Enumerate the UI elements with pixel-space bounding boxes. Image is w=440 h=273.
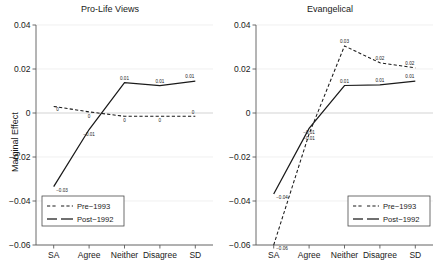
data-point-label: −0.01 <box>83 132 95 137</box>
y-axis-tick-label: 0.04 <box>234 20 251 30</box>
data-point-label: 0 <box>56 107 59 112</box>
y-axis-tick-label: −0.02 <box>9 152 31 162</box>
series-line-pre-1993 <box>54 106 196 116</box>
data-point-label: −0.01 <box>303 130 315 135</box>
data-point-label: 0.01 <box>155 79 164 84</box>
data-point-label: 0 <box>159 118 162 123</box>
series-line-post-1992 <box>54 81 196 187</box>
data-point-label: −0.01 <box>303 136 315 141</box>
legend-label-post: Post−1992 <box>77 215 114 224</box>
data-point-label: 0.03 <box>340 39 349 44</box>
legend-label-pre: Pre−1993 <box>383 202 416 211</box>
x-axis-category-label: SA <box>48 250 60 260</box>
y-axis-tick-label: −0.06 <box>229 240 251 250</box>
data-point-label: 0.02 <box>375 56 384 61</box>
data-point-label: 0 <box>123 118 126 123</box>
x-axis-category-label: SD <box>409 250 421 260</box>
data-point-label: −0.06 <box>276 246 288 251</box>
data-point-label: 0 <box>88 114 91 119</box>
data-point-label: 0 <box>192 110 195 115</box>
y-axis-tick-label: 0.04 <box>14 20 31 30</box>
data-point-label: 0.01 <box>185 74 194 79</box>
y-axis-tick-label: 0.02 <box>234 64 251 74</box>
data-point-label: 0.01 <box>340 79 349 84</box>
data-point-label: −0.04 <box>276 195 288 200</box>
plot-area-pro-life: −0.06−0.04−0.0200.020.04SAAgreeNeitherDi… <box>0 0 220 273</box>
x-axis-category-label: Agree <box>78 250 101 260</box>
y-axis-tick-label: −0.04 <box>9 196 31 206</box>
data-point-label: −0.03 <box>56 188 68 193</box>
x-axis-category-label: Neither <box>111 250 139 260</box>
chart-panel-evangelical: Evangelical Marginal Effect −0.06−0.04−0… <box>220 0 440 273</box>
figure-container: Pro-Life Views Marginal Effect −0.06−0.0… <box>0 0 440 273</box>
y-axis-tick-label: 0.02 <box>14 64 31 74</box>
legend-label-pre: Pre−1993 <box>77 202 110 211</box>
x-axis-category-label: Agree <box>298 250 321 260</box>
x-axis-category-label: Disagree <box>143 250 177 260</box>
chart-panel-pro-life: Pro-Life Views Marginal Effect −0.06−0.0… <box>0 0 220 273</box>
data-point-label: 0.02 <box>405 61 414 66</box>
y-axis-tick-label: −0.06 <box>9 240 31 250</box>
x-axis-category-label: SA <box>268 250 280 260</box>
y-axis-tick-label: 0 <box>246 108 251 118</box>
plot-area-evangelical: −0.06−0.04−0.0200.020.04SAAgreeNeitherDi… <box>220 0 440 273</box>
x-axis-category-label: SD <box>189 250 201 260</box>
x-axis-category-label: Disagree <box>363 250 397 260</box>
y-axis-tick-label: −0.04 <box>229 196 251 206</box>
data-point-label: 0.01 <box>120 76 129 81</box>
data-point-label: 0.01 <box>405 74 414 79</box>
data-point-label: 0.01 <box>375 78 384 83</box>
legend-label-post: Post−1992 <box>383 215 420 224</box>
y-axis-tick-label: 0 <box>26 108 31 118</box>
y-axis-tick-label: −0.02 <box>229 152 251 162</box>
x-axis-category-label: Neither <box>331 250 359 260</box>
